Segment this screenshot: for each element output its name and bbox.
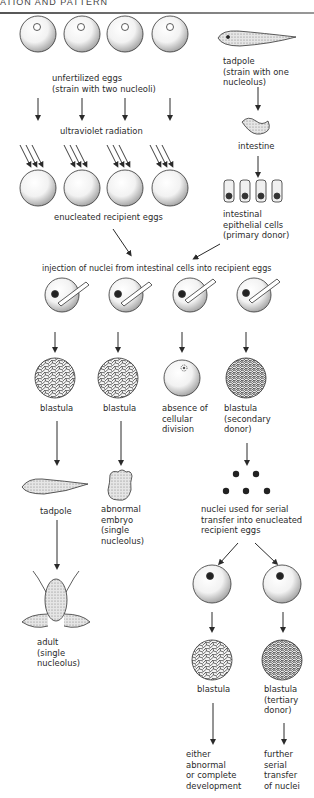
abnormal-embryo-label: abnormal embryo (single nucleolus) (101, 504, 144, 546)
label-line: division (162, 424, 208, 435)
ultraviolet-label: ultraviolet radiation (60, 126, 143, 137)
nuclei-icon (223, 471, 270, 494)
label-line: (tertiary (264, 695, 298, 706)
label-line: abnormal (186, 760, 241, 771)
serial-recipient-egg-icon (193, 565, 301, 603)
label-line: epithelial cells (223, 220, 289, 231)
label-line: further (264, 749, 300, 760)
label-line: donor) (264, 705, 298, 716)
label-line: nucleolus) (223, 77, 289, 88)
blastula-icon (35, 358, 266, 398)
label-line: donor) (224, 424, 271, 435)
label-line: recipient eggs (201, 525, 302, 536)
label-line: (primary donor) (223, 230, 289, 241)
absence-division-label: absence of cellular division (162, 403, 208, 435)
label-line: serial (264, 760, 300, 771)
serial-blastula-icon (192, 640, 302, 680)
blastula-label-2: blastula (103, 403, 136, 414)
unfertilized-eggs-label: unfertilized eggs (strain with two nucle… (52, 73, 156, 94)
label-line: development (186, 781, 241, 792)
epithelial-cells-label: intestinal epithelial cells (primary don… (223, 209, 289, 241)
label-line: transfer into enucleated (201, 515, 302, 526)
donor-tadpole-label: tadpole (strain with one nucleolus) (223, 56, 289, 88)
serial-transfer-label: nuclei used for serial transfer into enu… (201, 504, 302, 536)
intestine-icon (242, 118, 269, 134)
unfertilized-egg-icon (20, 16, 188, 52)
label-line: adult (37, 637, 80, 648)
enucleated-egg-icon (20, 170, 188, 206)
label-line: blastula (264, 684, 298, 695)
label-line: blastula (224, 403, 271, 414)
nuclear-transplant-diagram (0, 0, 314, 798)
injection-label: injection of nuclei from intestinal cell… (42, 264, 271, 275)
label-line: (strain with two nucleoli) (52, 84, 156, 95)
tertiary-donor-label: blastula (tertiary donor) (264, 684, 298, 716)
label-line: tadpole (223, 56, 289, 67)
enucleated-eggs-label: enucleated recipient eggs (54, 212, 163, 223)
secondary-donor-label: blastula (secondary donor) (224, 403, 271, 435)
label-line: or complete (186, 770, 241, 781)
blastula-label-1: blastula (40, 403, 73, 414)
development-outcome-label: either abnormal or complete development (186, 749, 241, 791)
label-line: (single (101, 525, 144, 536)
serial-blastula-label: blastula (197, 684, 230, 695)
label-line: (strain with one (223, 67, 289, 78)
label-line: either (186, 749, 241, 760)
undivided-egg-icon (164, 360, 200, 396)
label-line: embryo (101, 515, 144, 526)
label-line: intestinal (223, 209, 289, 220)
injected-egg-icon (45, 278, 271, 312)
label-line: unfertilized eggs (52, 73, 156, 84)
label-line: (secondary (224, 414, 271, 425)
donor-tadpole-icon (218, 31, 296, 46)
label-line: (single (37, 648, 80, 659)
label-line: absence of (162, 403, 208, 414)
epithelial-cells-icon (224, 180, 282, 202)
tadpole-result-label: tadpole (40, 506, 72, 517)
label-line: abnormal (101, 504, 144, 515)
abnormal-embryo-icon (108, 470, 132, 500)
adult-label: adult (single nucleolus) (37, 637, 80, 669)
label-line: transfer (264, 770, 300, 781)
further-transfer-label: further serial transfer of nuclei (264, 749, 300, 791)
tadpole-icon (22, 479, 88, 494)
label-line: nucleolus) (37, 658, 80, 669)
label-line: cellular (162, 414, 208, 425)
intestine-label: intestine (238, 141, 275, 152)
label-line: of nuclei (264, 781, 300, 792)
label-line: nuclei used for serial (201, 504, 302, 515)
label-line: nucleolus) (101, 536, 144, 547)
adult-frog-icon (22, 571, 90, 627)
